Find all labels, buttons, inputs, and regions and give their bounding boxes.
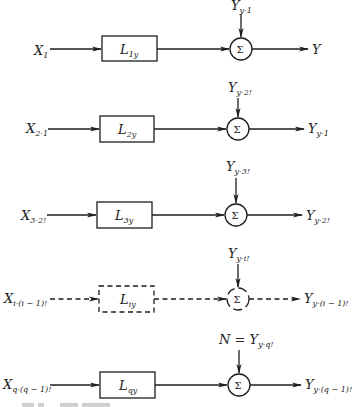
row-5: Xq·(q − 1)! Lqy Σ N = Yy·q! Yy·(q − 1)! bbox=[2, 332, 352, 398]
row-1: X1 L1y Σ Yy·1 Y bbox=[33, 0, 322, 61]
output-label: Y bbox=[312, 42, 322, 57]
sigma-icon: Σ bbox=[234, 124, 241, 135]
input-label-x1: X1 bbox=[33, 43, 48, 60]
input-label: X3·2! bbox=[20, 208, 46, 225]
caption-fragment bbox=[22, 403, 110, 407]
row-2: X2·1 L2y Σ Yy·2! Yy·1 bbox=[25, 80, 329, 142]
side-input-label: Yy·1 bbox=[231, 0, 252, 15]
sigma-icon: Σ bbox=[237, 44, 244, 55]
output-label: Yy·(i − 1)! bbox=[304, 291, 349, 308]
block-label: L1y bbox=[119, 42, 139, 59]
sigma-icon: Σ bbox=[232, 210, 239, 221]
input-label: Xq·(q − 1)! bbox=[2, 377, 51, 394]
side-input-label: Yy·3! bbox=[226, 159, 250, 176]
sigma-icon: Σ bbox=[234, 294, 241, 305]
block-label: L2y bbox=[117, 122, 137, 139]
side-input-label: N = Yy·q! bbox=[218, 332, 274, 349]
sigma-icon: Σ bbox=[235, 380, 242, 391]
block-label: Liy bbox=[119, 292, 136, 309]
block-label: L3y bbox=[114, 208, 134, 225]
row-3: X3·2! L3y Σ Yy·3! Yy·2! bbox=[20, 159, 330, 228]
output-label: Yy·(q − 1)! bbox=[305, 377, 352, 394]
block-label: Lqy bbox=[118, 378, 138, 395]
output-label: Yy·1 bbox=[308, 121, 329, 138]
output-label: Yy·2! bbox=[306, 208, 330, 225]
side-input-label: Yy·i! bbox=[228, 246, 249, 263]
input-label: X2·1 bbox=[25, 121, 48, 138]
input-label: Xi·(i − 1)! bbox=[3, 291, 47, 308]
side-input-label: Yy·2! bbox=[228, 80, 252, 97]
block-diagram: X1 L1y Σ Yy·1 Y X2·1 L2y Σ Yy·2! Yy·1 X3… bbox=[0, 0, 361, 407]
row-4-generic-i: Xi·(i − 1)! Liy Σ Yy·i! Yy·(i − 1)! bbox=[3, 246, 349, 312]
